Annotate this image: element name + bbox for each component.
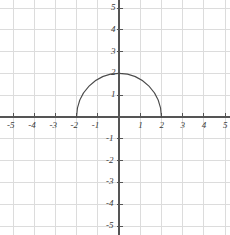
y-tick-label--5: -5 [106, 221, 114, 230]
y-tick-label--3: -3 [106, 177, 114, 186]
y-tick-label-5: 5 [111, 3, 116, 12]
y-tick-label--4: -4 [106, 199, 114, 208]
y-tick-label-3: 3 [111, 47, 116, 56]
x-tick-label-5: 5 [223, 121, 228, 130]
y-tick-label-4: 4 [111, 25, 116, 34]
y-tick-label--1: -1 [106, 134, 114, 143]
x-tick-label--4: -4 [28, 121, 36, 130]
y-tick-label--2: -2 [106, 156, 114, 165]
y-tick-label-1: 1 [111, 90, 116, 99]
x-tick-label-2: 2 [159, 121, 164, 130]
x-tick-label--5: -5 [7, 121, 15, 130]
x-tick-label--2: -2 [71, 121, 79, 130]
x-tick-label-4: 4 [202, 121, 207, 130]
x-tick-label-3: 3 [181, 121, 186, 130]
graph-canvas [0, 0, 230, 235]
x-tick-label--1: -1 [92, 121, 100, 130]
coordinate-plane-graph: -5-4-3-2-11234512345-1-2-3-4-5 [0, 0, 230, 235]
x-tick-label-1: 1 [138, 121, 143, 130]
x-tick-label--3: -3 [49, 121, 57, 130]
y-tick-label-2: 2 [111, 68, 116, 77]
